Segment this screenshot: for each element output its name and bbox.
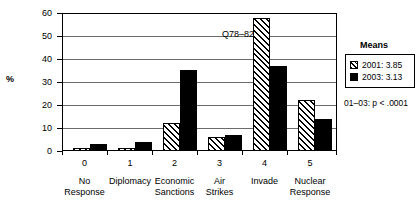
x-tick-mark-5 xyxy=(287,151,288,155)
x-tick-mark-end xyxy=(336,151,337,155)
legend-label-2001: 2001: 3.85 xyxy=(362,61,402,70)
bar-2001-cat-2 xyxy=(163,123,180,151)
x-category-number-1: 1 xyxy=(105,158,155,169)
x-category-2: 2 Economic Sanctions xyxy=(152,158,197,198)
bars-layer: Q78–82 xyxy=(62,13,337,151)
chart-figure: % 60 50 40 30 20 10 0 xyxy=(0,0,420,206)
x-category-label-2-line1: Economic xyxy=(152,176,197,187)
x-tick-mark-2 xyxy=(152,151,153,155)
bar-2003-cat-5 xyxy=(315,119,332,151)
x-category-label-5-line2: Response xyxy=(285,187,335,198)
x-category-label-4-line1: Invade xyxy=(242,176,287,187)
y-tick-label-30: 30 xyxy=(42,78,52,87)
x-category-label-2-line2: Sanctions xyxy=(152,187,197,198)
legend-entry-2003: 2003: 3.13 xyxy=(350,71,410,83)
x-tick-mark-1 xyxy=(107,151,108,155)
x-category-label-0-line2: Response xyxy=(62,187,107,198)
y-tick-label-40: 40 xyxy=(42,55,52,64)
x-category-number-2: 2 xyxy=(152,158,197,169)
x-category-number-5: 5 xyxy=(285,158,335,169)
bar-2003-cat-1 xyxy=(135,142,152,151)
x-tick-mark-4 xyxy=(242,151,243,155)
y-tick-label-20: 20 xyxy=(42,101,52,110)
legend-swatch-2003-icon xyxy=(350,73,358,81)
y-tick-label-0: 0 xyxy=(47,147,52,156)
legend-label-2003: 2003: 3.13 xyxy=(362,73,402,82)
bar-2001-cat-3 xyxy=(208,137,225,151)
x-tick-mark-start xyxy=(62,151,63,155)
x-category-label-3-line1: Air xyxy=(197,176,242,187)
y-axis-title: % xyxy=(6,75,14,84)
y-tick-label-50: 50 xyxy=(42,32,52,41)
legend-entry-2001: 2001: 3.85 xyxy=(350,59,410,71)
legend-swatch-2001-icon xyxy=(350,61,358,69)
x-category-number-0: 0 xyxy=(62,158,107,169)
y-tick-label-10: 10 xyxy=(42,124,52,133)
x-category-label-5-line1: Nuclear xyxy=(285,176,335,187)
bar-2001-cat-1 xyxy=(118,148,135,151)
x-category-label-0-line1: No xyxy=(62,176,107,187)
x-category-4: 4 Invade xyxy=(242,158,287,187)
x-category-number-4: 4 xyxy=(242,158,287,169)
x-category-label-1-line1: Diplomacy xyxy=(105,176,155,187)
y-tick-label-60: 60 xyxy=(42,9,52,18)
x-category-5: 5 Nuclear Response xyxy=(285,158,335,198)
bar-2003-cat-3 xyxy=(225,135,242,151)
x-category-label-3-line2: Strikes xyxy=(197,187,242,198)
bar-2001-cat-5 xyxy=(298,100,315,151)
plot-annotation: Q78–82 xyxy=(222,29,254,39)
bar-2001-cat-0 xyxy=(73,148,90,151)
x-category-1: 1 Diplomacy xyxy=(105,158,155,187)
bar-2003-cat-4 xyxy=(270,66,287,151)
bar-2001-cat-4 xyxy=(253,18,270,151)
bar-2003-cat-0 xyxy=(90,144,107,151)
x-category-3: 3 Air Strikes xyxy=(197,158,242,198)
x-category-number-3: 3 xyxy=(197,158,242,169)
x-tick-mark-3 xyxy=(197,151,198,155)
legend: 2001: 3.85 2003: 3.13 xyxy=(345,54,415,88)
bar-2003-cat-2 xyxy=(180,70,197,151)
y-axis: 60 50 40 30 20 10 0 xyxy=(24,0,58,206)
significance-footnote: 01–03: p < .0001 xyxy=(344,99,408,108)
x-category-0: 0 No Response xyxy=(62,158,107,198)
legend-title: Means xyxy=(360,41,388,50)
